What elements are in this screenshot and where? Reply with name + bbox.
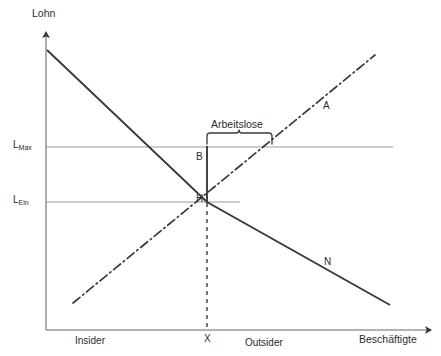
y-tick-lmax-main: L bbox=[13, 139, 19, 150]
labour-demand-curve-n bbox=[47, 50, 390, 305]
point-label-h: H bbox=[196, 194, 203, 204]
point-label-b: B bbox=[196, 152, 203, 162]
y-tick-lein-main: L bbox=[13, 194, 19, 205]
diagram-canvas: Lohn Beschäftigte LMax LEin B H X A N Ar… bbox=[0, 0, 441, 356]
y-axis-title: Lohn bbox=[32, 8, 55, 19]
y-tick-lmax: LMax bbox=[13, 140, 32, 150]
region-label-outsider: Outsider bbox=[245, 338, 283, 348]
x-axis-title: Beschäftigte bbox=[359, 334, 417, 345]
point-label-x: X bbox=[204, 334, 211, 344]
unemployment-brace-label: Arbeitslose bbox=[211, 119, 263, 130]
y-tick-lmax-sub: Max bbox=[19, 144, 32, 151]
region-label-insider: Insider bbox=[75, 336, 105, 346]
diagram-graphics bbox=[0, 0, 441, 356]
y-tick-lein: LEin bbox=[13, 195, 29, 205]
curve-label-a: A bbox=[323, 101, 330, 111]
unemployment-brace bbox=[207, 130, 272, 144]
curve-label-n: N bbox=[324, 257, 331, 267]
y-tick-lein-sub: Ein bbox=[19, 199, 29, 206]
